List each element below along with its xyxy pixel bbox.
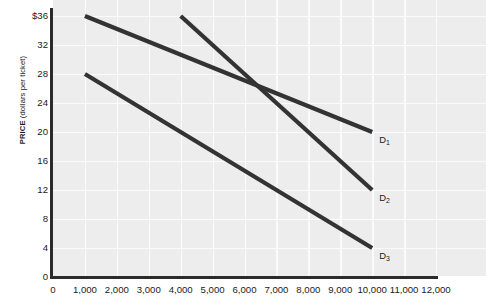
curve-label-d1: D1 — [379, 135, 390, 146]
curve-label-subscript: 3 — [386, 255, 390, 262]
curve-label-subscript: 1 — [386, 139, 390, 146]
x-axis-ticks: 01,0002,0003,0004,0005,0006,0007,0008,00… — [0, 0, 486, 302]
demand-curve-chart: PRICE (dollars per ticket) $363228242016… — [0, 0, 486, 302]
curve-label-subscript: 2 — [386, 197, 390, 204]
curve-label-text: D — [379, 134, 386, 145]
curve-label-text: D — [379, 192, 386, 203]
curve-label-d3: D3 — [379, 251, 390, 262]
x-tick-label: 12,000 — [406, 284, 466, 295]
curve-label-d2: D2 — [379, 193, 390, 204]
curve-label-text: D — [379, 250, 386, 261]
